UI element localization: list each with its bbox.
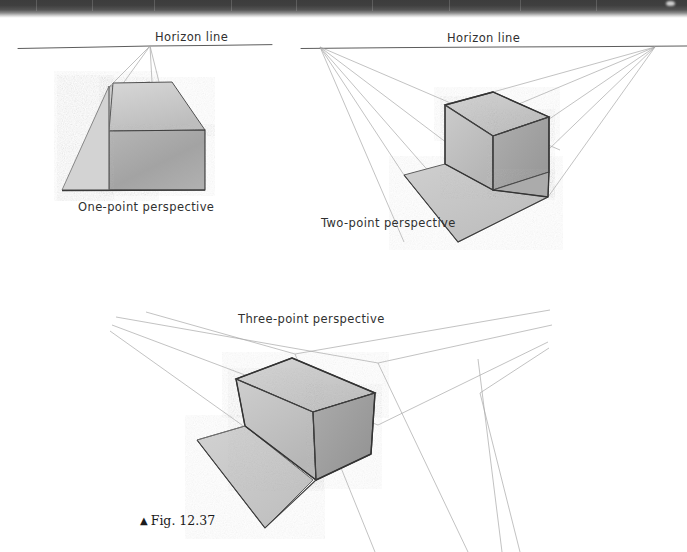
caption-label: Fig. 12.37 [151, 513, 215, 528]
figure-caption: ▲Fig. 12.37 [140, 513, 215, 528]
one-point-front-face [109, 130, 205, 190]
label-two-point-perspective: Two-point perspective [321, 216, 456, 230]
caption-triangle-icon: ▲ [140, 515, 148, 526]
diagram-one-point-perspective [18, 45, 272, 191]
one-point-top-face [109, 82, 205, 131]
one-point-ground-wedge [62, 86, 109, 190]
figure-page: Horizon line One-point perspective Horiz… [0, 0, 687, 552]
horizon-line-label-two-point: Horizon line [447, 31, 520, 45]
diagram-two-point-perspective [301, 46, 687, 242]
perspective-drawings [0, 0, 687, 552]
horizon-line-two-point [301, 46, 687, 49]
horizon-line-label-one-point: Horizon line [155, 30, 228, 44]
horizon-line-one-point [18, 45, 272, 49]
label-one-point-perspective: One-point perspective [78, 200, 214, 214]
label-three-point-perspective: Three-point perspective [238, 312, 385, 326]
